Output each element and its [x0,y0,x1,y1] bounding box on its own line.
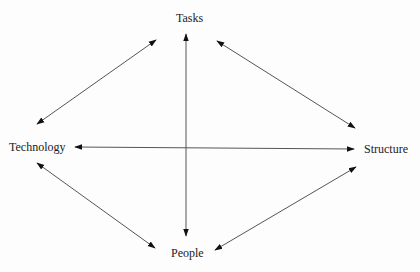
edge-technology-structure [75,147,354,149]
edge-tasks-technology [37,40,156,124]
node-technology: Technology [9,140,65,154]
node-people: People [171,246,204,260]
diagram-edges [0,0,420,272]
edge-people-structure [215,167,356,250]
edge-tasks-structure [217,41,355,128]
node-tasks: Tasks [176,11,203,25]
edge-technology-people [37,163,155,248]
diagram-canvas: Tasks Technology Structure People [0,0,420,272]
node-structure: Structure [364,142,408,156]
